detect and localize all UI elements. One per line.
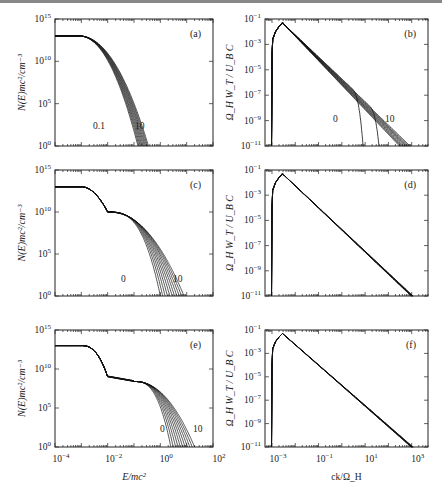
y-axis-label: N(E)mc²/cm⁻³ bbox=[16, 359, 28, 418]
svg-text:10−11: 10−11 bbox=[241, 139, 262, 151]
svg-text:10−9: 10−9 bbox=[244, 417, 261, 429]
curve-label: 0.1 bbox=[93, 121, 105, 131]
svg-text:10−11: 10−11 bbox=[241, 289, 262, 301]
svg-text:100: 100 bbox=[38, 289, 52, 301]
svg-text:1010: 1010 bbox=[35, 362, 52, 374]
svg-text:10−1: 10−1 bbox=[244, 12, 261, 24]
svg-text:100: 100 bbox=[38, 139, 52, 151]
svg-text:100: 100 bbox=[160, 452, 174, 464]
svg-text:10−5: 10−5 bbox=[244, 213, 261, 225]
panel-label: (e) bbox=[190, 339, 201, 351]
panel-a: 10010510101015N(E)mc²/cm⁻³(a)0.110 bbox=[16, 12, 213, 151]
y-axis-label: N(E)mc²/cm⁻³ bbox=[16, 204, 28, 263]
panel-label: (a) bbox=[190, 28, 201, 40]
curve-label: 10 bbox=[173, 274, 183, 284]
svg-text:10−7: 10−7 bbox=[244, 393, 261, 405]
panel-d: 10−1110−910−710−510−310−1Ω_H W_T / U_B C… bbox=[224, 163, 428, 301]
curve-label: 0 bbox=[121, 274, 126, 284]
svg-text:10−9: 10−9 bbox=[244, 264, 261, 276]
curve-label: 10 bbox=[385, 114, 395, 124]
svg-text:10−3: 10−3 bbox=[270, 452, 287, 464]
svg-text:101: 101 bbox=[365, 452, 379, 464]
svg-text:10−5: 10−5 bbox=[244, 63, 261, 75]
svg-text:10−1: 10−1 bbox=[244, 163, 261, 175]
svg-text:1010: 1010 bbox=[35, 54, 52, 66]
svg-text:105: 105 bbox=[38, 97, 52, 109]
svg-text:10−1: 10−1 bbox=[316, 452, 333, 464]
panel-b: 10−1110−910−710−510−310−1Ω_H W_T / U_B C… bbox=[224, 12, 428, 151]
y-axis-label: N(E)mc²/cm⁻³ bbox=[16, 53, 28, 112]
svg-text:103: 103 bbox=[411, 452, 425, 464]
panel-label: (b) bbox=[404, 28, 416, 40]
svg-text:1015: 1015 bbox=[35, 323, 52, 335]
x-axis-label: E/mc² bbox=[121, 471, 147, 482]
panel-label: (c) bbox=[190, 179, 201, 191]
curve-label: 0 bbox=[333, 114, 338, 124]
svg-text:10−5: 10−5 bbox=[244, 370, 261, 382]
panel-e: 10010510101015N(E)mc²/cm⁻³(e)010 bbox=[16, 323, 213, 452]
panel-c: 10010510101015N(E)mc²/cm⁻³(c)010 bbox=[16, 163, 213, 301]
svg-text:10−1: 10−1 bbox=[244, 323, 261, 335]
panel-f: 10−1110−910−710−510−310−1Ω_H W_T / U_B C… bbox=[224, 323, 428, 452]
svg-text:10−9: 10−9 bbox=[244, 114, 261, 126]
svg-text:105: 105 bbox=[38, 247, 52, 259]
curve-label: 10 bbox=[135, 121, 145, 131]
svg-text:10−7: 10−7 bbox=[244, 239, 261, 251]
y-axis-label: Ω_H W_T / U_B C bbox=[224, 350, 235, 426]
svg-text:10−11: 10−11 bbox=[241, 440, 262, 452]
x-axis-label: ck/Ω_H bbox=[331, 472, 361, 482]
svg-text:102: 102 bbox=[213, 452, 227, 464]
panel-label: (f) bbox=[406, 339, 416, 351]
curve-label: 10 bbox=[193, 424, 203, 434]
figure: 10010510101015N(E)mc²/cm⁻³(a)0.110100105… bbox=[0, 0, 442, 489]
svg-text:100: 100 bbox=[38, 440, 52, 452]
panel-label: (d) bbox=[404, 179, 416, 191]
svg-text:10−4: 10−4 bbox=[53, 452, 70, 464]
svg-text:1015: 1015 bbox=[35, 163, 52, 175]
svg-text:105: 105 bbox=[38, 401, 52, 413]
curve-label: 0 bbox=[160, 424, 165, 434]
svg-text:10−7: 10−7 bbox=[244, 88, 261, 100]
svg-text:1010: 1010 bbox=[35, 205, 52, 217]
svg-text:10−3: 10−3 bbox=[244, 346, 261, 358]
svg-text:10−2: 10−2 bbox=[105, 452, 122, 464]
y-axis-label: Ω_H W_T / U_B C bbox=[224, 195, 235, 271]
svg-text:1015: 1015 bbox=[35, 12, 52, 24]
svg-text:10−3: 10−3 bbox=[244, 188, 261, 200]
y-axis-label: Ω_H W_T / U_B C bbox=[224, 44, 235, 120]
svg-text:10−3: 10−3 bbox=[244, 37, 261, 49]
